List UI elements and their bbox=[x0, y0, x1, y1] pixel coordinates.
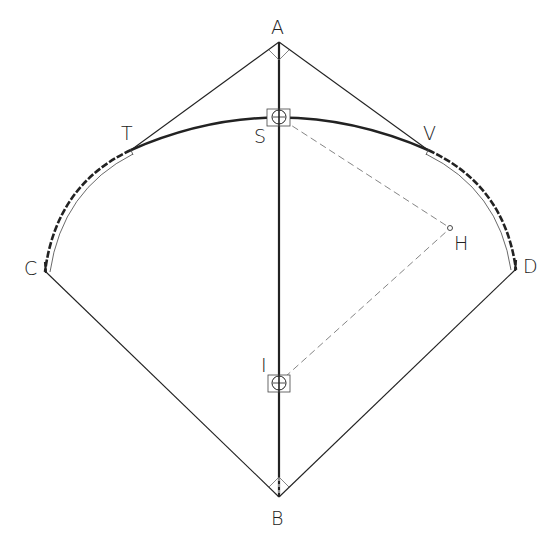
dashed-line-I-H bbox=[285, 231, 447, 377]
geometry-diagram: A S T V C D H I B bbox=[0, 0, 558, 548]
end-D bbox=[515, 260, 516, 271]
arc-V-D-outer bbox=[428, 150, 516, 270]
label-H: H bbox=[454, 232, 468, 254]
line-C-B bbox=[46, 272, 279, 497]
line-A-V bbox=[279, 42, 428, 150]
end-C bbox=[45, 262, 46, 273]
center-symbol-S bbox=[267, 109, 290, 126]
point-H-marker bbox=[448, 226, 453, 231]
label-S: S bbox=[254, 125, 266, 147]
label-A: A bbox=[271, 16, 284, 38]
label-T: T bbox=[121, 122, 133, 144]
line-D-B bbox=[279, 270, 515, 497]
arc-T-C-outer bbox=[45, 150, 131, 272]
center-symbol-I bbox=[268, 375, 290, 392]
label-C: C bbox=[24, 257, 37, 279]
label-B: B bbox=[271, 507, 283, 529]
label-V: V bbox=[423, 122, 436, 144]
label-I: I bbox=[261, 354, 267, 376]
label-D: D bbox=[523, 255, 538, 277]
